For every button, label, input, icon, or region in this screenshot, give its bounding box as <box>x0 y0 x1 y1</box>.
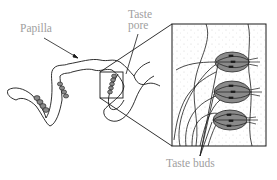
taste-buds-label: Taste buds <box>166 158 215 169</box>
taste-pore-label-line2: pore <box>128 20 152 31</box>
inset-magnified-view <box>172 24 266 146</box>
taste-pore-label: Taste pore <box>128 9 152 31</box>
papilla-taste-buds <box>34 74 116 112</box>
taste-bud-diagram: Papilla Taste pore Taste buds <box>0 0 277 180</box>
papilla-leader <box>44 38 78 58</box>
papilla-label: Papilla <box>20 23 52 34</box>
papilla-outline <box>7 59 160 126</box>
